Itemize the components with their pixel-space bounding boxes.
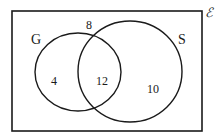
set-s-circle bbox=[78, 21, 182, 122]
region-s-only-count: 10 bbox=[147, 82, 159, 96]
region-g-only-count: 4 bbox=[51, 74, 57, 88]
set-s-label: S bbox=[178, 32, 186, 47]
region-outside-count: 8 bbox=[86, 18, 92, 32]
region-intersection-count: 12 bbox=[96, 74, 108, 88]
universal-set-symbol: ℰ bbox=[205, 5, 214, 20]
venn-diagram: ℰ G S 8 4 12 10 bbox=[0, 0, 217, 137]
set-g-label: G bbox=[31, 32, 41, 47]
universal-set-rectangle bbox=[12, 11, 202, 131]
